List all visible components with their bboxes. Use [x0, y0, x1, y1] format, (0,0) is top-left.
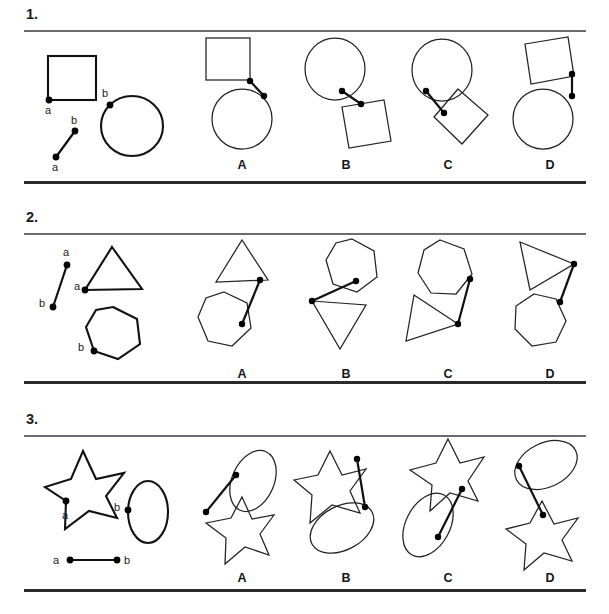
option-circle	[513, 89, 573, 149]
connector-label-a: a	[63, 246, 70, 258]
problem-1-option-c[interactable]: C	[396, 34, 500, 174]
option-circle	[305, 38, 365, 100]
option-circle	[412, 39, 472, 101]
option-point-2	[309, 298, 315, 304]
option-point-1	[354, 456, 360, 462]
problem-3-option-d[interactable]: D	[498, 439, 602, 579]
option-point-2	[261, 93, 267, 99]
divider-bottom	[24, 589, 586, 592]
option-point-2	[441, 110, 447, 116]
problem-2-option-d[interactable]: D	[498, 237, 602, 377]
option-label: D	[498, 571, 602, 585]
stimulus-ellipse	[128, 481, 168, 543]
option-point-1	[339, 88, 345, 94]
option-point-2	[435, 534, 441, 540]
stimulus-square-point-label: a	[45, 104, 52, 116]
stimulus-connector	[53, 265, 67, 307]
option-label: C	[396, 571, 500, 585]
connector-endpoint-a	[67, 557, 74, 564]
option-label: C	[396, 367, 500, 381]
option-label: A	[190, 158, 294, 172]
option-triangle	[406, 295, 458, 341]
problem-number: 1.	[26, 6, 38, 22]
problem-1-option-b[interactable]: B	[294, 34, 398, 174]
option-connector	[357, 459, 365, 507]
option-point-1	[467, 276, 473, 282]
option-label: B	[294, 571, 398, 585]
stimulus-triangle	[85, 247, 142, 290]
connector-label-b: b	[39, 297, 45, 309]
problem-1: 1. a b b a	[0, 0, 609, 200]
option-connector	[519, 466, 543, 515]
option-ellipse	[393, 485, 464, 566]
stimulus-star-point	[63, 498, 70, 505]
option-connector	[342, 91, 361, 104]
option-heptagon	[418, 240, 472, 294]
stimulus-triangle-point-label: a	[74, 280, 81, 292]
worksheet-page: 1. a b b a	[0, 0, 609, 614]
option-triangle	[520, 242, 574, 290]
option-point-2	[569, 93, 575, 99]
option-label: D	[498, 367, 602, 381]
problem-2-option-a[interactable]: A	[190, 237, 294, 377]
option-point-1	[353, 278, 359, 284]
problem-2-option-b[interactable]: B	[294, 237, 398, 377]
divider-top	[24, 30, 586, 32]
option-point-1	[569, 71, 575, 77]
divider-top	[24, 435, 586, 437]
option-square	[342, 100, 391, 148]
option-point-1	[233, 472, 239, 478]
connector-label-b: b	[124, 554, 130, 566]
problem-3-option-b[interactable]: B	[294, 439, 398, 579]
problem-number: 2.	[26, 209, 38, 225]
option-point-2	[239, 321, 245, 327]
option-point-1	[423, 88, 429, 94]
stimulus-star	[45, 451, 124, 529]
option-point-1	[516, 463, 522, 469]
connector-label-a: a	[52, 161, 59, 173]
connector-endpoint-b	[72, 128, 79, 135]
connector-label-a: a	[53, 554, 60, 566]
option-star	[410, 439, 484, 511]
option-point-2	[557, 299, 563, 305]
option-square	[525, 37, 574, 84]
option-square	[434, 89, 488, 144]
option-point-2	[540, 512, 546, 518]
option-point-1	[247, 78, 253, 84]
option-label: C	[396, 158, 500, 172]
option-point-2	[358, 101, 364, 107]
connector-endpoint-a	[64, 262, 71, 269]
stimulus-ellipse-point-label: b	[114, 501, 120, 513]
stimulus-heptagon-point-label: b	[78, 341, 84, 353]
problem-3-option-a[interactable]: A	[190, 439, 294, 579]
problem-2-option-c[interactable]: C	[396, 237, 500, 377]
option-triangle	[312, 301, 366, 349]
option-point-1	[459, 486, 465, 492]
problem-2-stimulus: a b a b	[20, 237, 190, 377]
stimulus-heptagon-point	[91, 348, 98, 355]
option-point-1	[571, 261, 577, 267]
option-label: A	[190, 571, 294, 585]
divider-bottom	[24, 381, 586, 384]
option-label: D	[498, 158, 602, 172]
divider-top	[24, 233, 586, 235]
option-triangle	[216, 240, 268, 282]
option-connector	[426, 91, 444, 113]
stimulus-star-point-label: a	[62, 509, 69, 521]
option-star	[294, 451, 366, 523]
problem-1-stimulus: a b b a	[20, 34, 190, 174]
problem-3-option-c[interactable]: C	[396, 439, 500, 579]
option-label: B	[294, 158, 398, 172]
stimulus-triangle-point	[82, 287, 89, 294]
problem-number: 3.	[26, 411, 38, 427]
problem-3-stimulus: a b a b	[20, 439, 190, 579]
option-connector	[458, 279, 470, 324]
option-point-1	[257, 277, 263, 283]
option-point-2	[203, 509, 209, 515]
connector-endpoint-b	[114, 557, 121, 564]
problem-1-option-d[interactable]: D	[498, 34, 602, 174]
problem-1-option-a[interactable]: A	[190, 34, 294, 174]
option-label: B	[294, 367, 398, 381]
option-connector	[560, 264, 574, 302]
divider-bottom	[24, 181, 586, 184]
